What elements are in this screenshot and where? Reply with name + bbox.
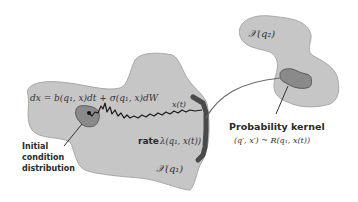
sde-equation: dx = b(q₁, x)dt + σ(q₁, x)dW	[30, 93, 159, 103]
rate-label-math: λ(q₁, x(t))	[159, 136, 201, 146]
initial-label-line-3: distribution	[22, 164, 75, 173]
kernel-label: Probability kernel	[229, 121, 325, 132]
initial-label-line-1: Initial	[22, 142, 48, 151]
region-q1-label: 𝒳(q₁)	[156, 163, 183, 174]
kernel-math: (q′, x′) ~ R(q₁, x(t))	[234, 136, 310, 145]
reset-arrow	[206, 78, 280, 118]
region-q2-label: 𝒳(q₂)	[248, 28, 275, 39]
initial-label-line-2: condition	[22, 153, 64, 162]
hybrid-system-diagram: dx = b(q₁, x)dt + σ(q₁, x)dW x(t) rate λ…	[0, 0, 358, 202]
initial-point	[87, 111, 91, 115]
rate-label-prefix: rate	[138, 136, 159, 146]
trajectory-label: x(t)	[172, 100, 186, 109]
